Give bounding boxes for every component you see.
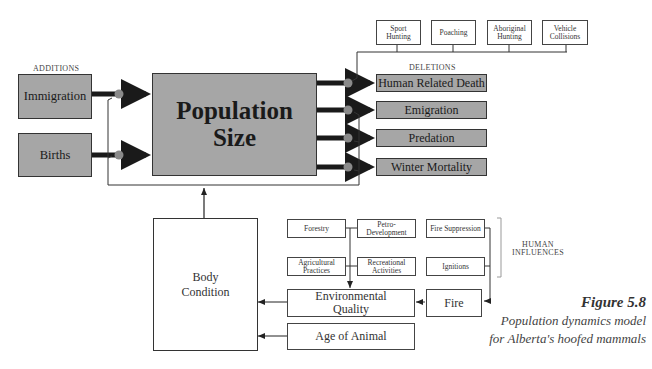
population-line1: Population <box>176 98 293 124</box>
births-box: Births <box>18 133 92 177</box>
environmental-quality-line2: Quality <box>333 303 369 316</box>
sport-hunting-line2: Hunting <box>386 33 411 41</box>
population-line2: Size <box>213 125 256 151</box>
body-condition-line2: Condition <box>181 285 229 299</box>
forestry-box: Forestry <box>287 219 346 238</box>
figure-caption: Population dynamics model for Alberta's … <box>489 312 646 347</box>
body-condition-line1: Body <box>192 270 218 284</box>
age-of-animal-box: Age of Animal <box>287 323 415 350</box>
environmental-quality-box: Environmental Quality <box>287 289 415 317</box>
winter-mortality-box: Winter Mortality <box>376 158 487 176</box>
human-influences-label: HUMAN INFLUENCES <box>512 241 564 257</box>
figure-number: Figure 5.8 <box>581 294 646 311</box>
predation-box: Predation <box>376 129 487 147</box>
immigration-box: Immigration <box>18 74 92 119</box>
deletions-label: DELETIONS <box>409 63 456 72</box>
recreational-line2: Activities <box>372 267 401 275</box>
agricultural-practices-box: Agricultural Practices <box>287 257 346 276</box>
caption-line2: for Alberta's hoofed mammals <box>489 330 646 348</box>
aboriginal-hunting-line2: Hunting <box>497 33 522 41</box>
population-size-box: Population Size <box>152 73 317 176</box>
human-related-death-box: Human Related Death <box>376 74 487 92</box>
sport-hunting-box: Sport Hunting <box>376 20 421 45</box>
ignitions-box: Ignitions <box>426 257 485 276</box>
body-condition-box: Body Condition <box>153 218 258 351</box>
petro-line2: Development <box>366 229 406 237</box>
recreational-activities-box: Recreational Activities <box>357 257 416 276</box>
fire-box: Fire <box>426 289 482 317</box>
vehicle-collisions-line2: Collisions <box>550 33 580 41</box>
agricultural-line2: Practices <box>303 267 330 275</box>
emigration-box: Emigration <box>376 101 487 119</box>
caption-line1: Population dynamics model <box>489 312 646 330</box>
petro-development-box: Petro- Development <box>357 219 416 238</box>
aboriginal-hunting-box: Aboriginal Hunting <box>487 20 532 45</box>
additions-label: ADDITIONS <box>33 64 79 73</box>
human-influences-line2: INFLUENCES <box>512 249 564 257</box>
poaching-box: Poaching <box>431 20 476 45</box>
vehicle-collisions-box: Vehicle Collisions <box>542 20 588 45</box>
fire-suppression-box: Fire Suppression <box>426 219 485 238</box>
